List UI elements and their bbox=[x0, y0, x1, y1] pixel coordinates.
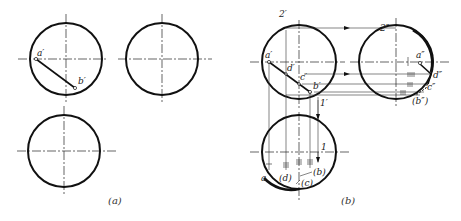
panel-b-front-view: 2′ a′ d′ c′ b′ 1′ bbox=[250, 9, 345, 170]
label-1: 1 bbox=[321, 142, 327, 152]
panel-b-side-view: 2″ a″ d″ c″ (b″) bbox=[350, 18, 450, 108]
label-b-prime: b′ bbox=[78, 76, 86, 86]
panel-a: a′ b′ (a) bbox=[17, 14, 212, 206]
label-c: (c) bbox=[301, 178, 314, 188]
label-a: a bbox=[261, 173, 266, 183]
hatch-ticks-top bbox=[266, 160, 313, 167]
label-c-prime: c′ bbox=[300, 72, 307, 82]
panel-a-top-view bbox=[17, 106, 116, 196]
label-d-prime: d′ bbox=[287, 63, 295, 73]
label-2-prime: 2′ bbox=[278, 9, 287, 19]
panel-b-top-view: 1 a (d) (b) (c) bbox=[250, 112, 350, 200]
label-2-dprime: 2″ bbox=[379, 23, 390, 33]
label-1-prime: 1′ bbox=[320, 98, 328, 108]
label-c-dprime: c″ bbox=[427, 82, 436, 92]
label-b: (b) bbox=[313, 167, 326, 177]
projection-lines bbox=[286, 26, 430, 95]
label-a-dprime: a″ bbox=[416, 50, 425, 60]
panel-b: 2′ a′ d′ c′ b′ 1′ bbox=[250, 9, 450, 206]
label-d: (d) bbox=[279, 173, 292, 183]
label-d-dprime: d″ bbox=[433, 70, 443, 80]
panel-a-side-view bbox=[118, 14, 212, 104]
label-b-prime-b: b′ bbox=[313, 81, 321, 91]
hatch-ticks-side bbox=[401, 57, 414, 95]
panel-a-front-view: a′ b′ bbox=[18, 14, 108, 104]
label-b-dprime: (b″) bbox=[412, 96, 429, 106]
label-a-prime-b: a′ bbox=[265, 50, 272, 60]
caption-a: (a) bbox=[108, 195, 122, 206]
label-a-prime: a′ bbox=[37, 48, 44, 58]
caption-b: (b) bbox=[341, 195, 355, 206]
orthographic-projection-drawing: a′ b′ (a) bbox=[0, 0, 461, 221]
